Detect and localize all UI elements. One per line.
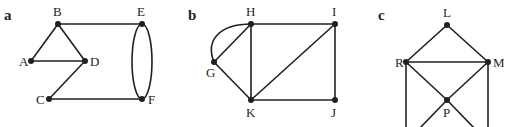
vertex-label-r: R — [395, 55, 404, 70]
vertex-label-i: I — [332, 4, 336, 19]
vertex-h — [248, 21, 254, 27]
edge-m-p — [447, 62, 488, 100]
vertex-c — [46, 96, 52, 102]
vertex-label-d: D — [90, 54, 99, 69]
edge-g-k — [214, 62, 251, 100]
vertex-label-g: G — [206, 65, 215, 80]
vertex-label-m: M — [493, 55, 505, 70]
edge-d-c — [49, 61, 85, 99]
vertex-p — [444, 97, 450, 103]
edge-b-d — [58, 24, 85, 61]
vertex-label-b: B — [53, 4, 62, 19]
vertex-label-h: H — [246, 4, 255, 19]
vertex-label-c: C — [36, 92, 45, 107]
panel-c: c L R M P — [378, 5, 505, 127]
vertex-i — [332, 21, 338, 27]
panel-a: a A B C D E F — [4, 4, 155, 107]
vertex-l — [444, 22, 450, 28]
vertex-r — [403, 59, 409, 65]
vertex-label-e: E — [137, 4, 145, 19]
panel-b: b G H I J K — [188, 4, 338, 120]
vertex-f — [139, 96, 145, 102]
vertex-e — [139, 21, 145, 27]
vertex-label-l: L — [443, 5, 451, 20]
vertex-label-a: A — [19, 54, 29, 69]
edge-k-i — [251, 24, 335, 100]
panel-label-c: c — [378, 7, 385, 23]
panel-label-b: b — [188, 7, 196, 23]
vertex-label-f: F — [148, 92, 155, 107]
edge-g-h — [214, 24, 251, 62]
edge-a-b — [31, 24, 58, 61]
panel-label-a: a — [4, 7, 12, 23]
vertex-k — [248, 97, 254, 103]
vertex-d — [82, 58, 88, 64]
graph-diagrams: a A B C D E F b G H — [0, 0, 528, 127]
multi-edge-e-f — [132, 24, 152, 99]
vertex-label-j: J — [331, 105, 336, 120]
vertex-j — [332, 97, 338, 103]
vertex-label-k: K — [246, 105, 256, 120]
vertex-label-p: P — [443, 105, 450, 120]
vertex-m — [485, 59, 491, 65]
edge-r-p — [406, 62, 447, 100]
edge-l-m — [447, 25, 488, 62]
vertex-b — [55, 21, 61, 27]
edge-l-r — [406, 25, 447, 62]
vertex-a — [28, 58, 34, 64]
edge-p-down-right — [447, 100, 476, 127]
